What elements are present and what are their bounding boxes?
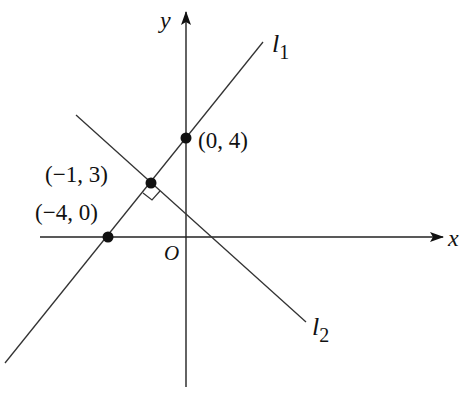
diagram-svg: x y O l1 l2 (0, 4) (−1, 3) (−4, 0) — [0, 0, 467, 394]
origin-label: O — [164, 241, 179, 265]
line-l1-label-sub: 1 — [279, 41, 289, 63]
coordinate-diagram: x y O l1 l2 (0, 4) (−1, 3) (−4, 0) — [0, 0, 467, 394]
line-l1-label-main: l — [272, 29, 279, 58]
x-axis-label: x — [447, 225, 459, 251]
point-neg4-0-label: (−4, 0) — [35, 200, 98, 225]
line-l1-label: l1 — [272, 29, 289, 63]
point-neg4-0 — [103, 232, 114, 243]
right-angle-marker — [143, 191, 160, 200]
line-l2-label-sub: 2 — [319, 324, 329, 346]
line-l2-label-main: l — [312, 312, 319, 341]
line-l2-label: l2 — [312, 312, 329, 346]
y-axis-label: y — [158, 7, 171, 33]
line-l2 — [76, 115, 306, 322]
point-neg1-3-label: (−1, 3) — [45, 162, 108, 187]
point-0-4 — [181, 133, 192, 144]
point-0-4-label: (0, 4) — [198, 128, 248, 153]
point-neg1-3 — [146, 178, 157, 189]
